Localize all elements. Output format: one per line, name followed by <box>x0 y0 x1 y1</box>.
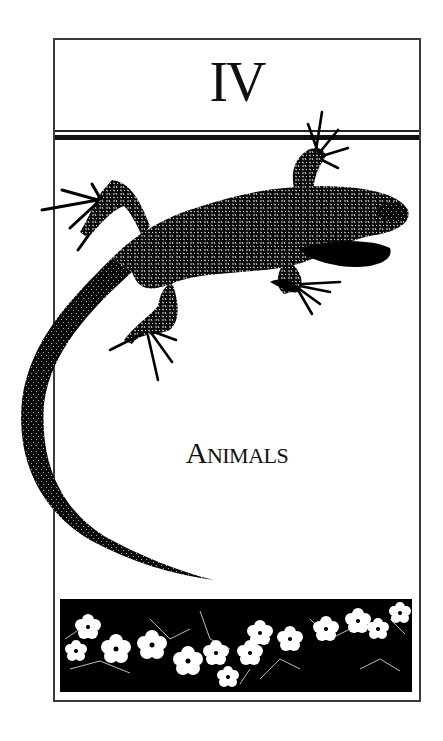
chapter-divider-page: IV <box>0 0 443 741</box>
chapter-title-initial: A <box>186 436 207 469</box>
chapter-title: ANIMALS <box>53 438 421 471</box>
flower-pattern-icon <box>60 599 412 692</box>
chapter-title-rest: NIMALS <box>207 443 288 468</box>
wildflower-band <box>60 599 412 692</box>
